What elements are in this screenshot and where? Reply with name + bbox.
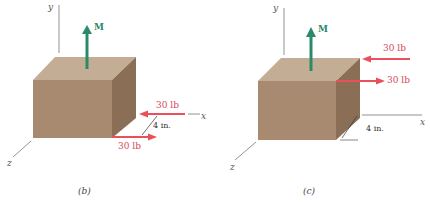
caption-c: (c) [303,186,315,196]
moment-label: M [94,22,104,32]
dimension-label: 4 in. [366,124,384,133]
x-axis-label: x [420,117,425,127]
force-label-upper: 30 lb [383,43,406,53]
z-axis-label: z [7,158,12,168]
dimension-label: 4 in. [153,121,171,130]
force-label-lower: 30 lb [118,141,141,151]
moment-label: M [318,24,328,34]
y-axis-label: y [48,2,53,12]
y-axis-label: y [273,3,278,13]
force-label-upper: 30 lb [156,100,179,110]
caption-b: (b) [78,186,91,196]
z-axis-label: z [230,162,235,172]
force-label-lower: 30 lb [387,75,410,85]
x-axis-label: x [201,111,206,121]
